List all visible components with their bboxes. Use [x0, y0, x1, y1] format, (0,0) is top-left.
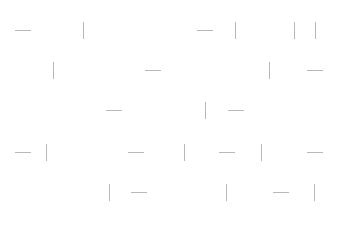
- vertical-line-segment: [184, 144, 185, 161]
- vertical-line-segment: [294, 22, 295, 39]
- vertical-line-segment: [109, 184, 110, 201]
- vertical-line-segment: [235, 22, 236, 39]
- vertical-line-segment: [205, 102, 206, 119]
- horizontal-line-segment: [228, 110, 244, 111]
- horizontal-line-segment: [128, 152, 144, 153]
- line-segment-field: [0, 0, 337, 227]
- horizontal-line-segment: [307, 152, 323, 153]
- vertical-line-segment: [315, 22, 316, 39]
- horizontal-line-segment: [106, 110, 122, 111]
- horizontal-line-segment: [145, 70, 161, 71]
- vertical-line-segment: [261, 144, 262, 161]
- vertical-line-segment: [269, 62, 270, 79]
- horizontal-line-segment: [15, 152, 31, 153]
- horizontal-line-segment: [219, 152, 235, 153]
- vertical-line-segment: [314, 184, 315, 201]
- horizontal-line-segment: [131, 192, 147, 193]
- horizontal-line-segment: [307, 70, 323, 71]
- vertical-line-segment: [46, 144, 47, 161]
- vertical-line-segment: [226, 184, 227, 201]
- horizontal-line-segment: [197, 30, 213, 31]
- horizontal-line-segment: [15, 30, 31, 31]
- vertical-line-segment: [83, 22, 84, 39]
- vertical-line-segment: [53, 62, 54, 79]
- horizontal-line-segment: [273, 192, 289, 193]
